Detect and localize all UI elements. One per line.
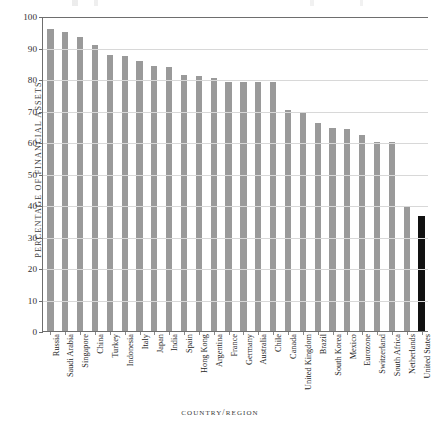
y-tick-label-30: 30: [28, 233, 37, 243]
x-axis-title-country: COUNTRY: [181, 409, 222, 417]
bar-south-africa: [389, 142, 395, 331]
x-axis-label-germany: Germany: [246, 334, 254, 365]
bar-singapore: [77, 37, 83, 331]
y-tick-label-70: 70: [28, 107, 37, 117]
page-crop-artifact: [60, 0, 390, 6]
x-axis-label-chile: Chile: [275, 334, 283, 352]
y-tick-label-80: 80: [28, 75, 37, 85]
bar-saudi-arabia: [62, 32, 68, 331]
y-tick-40: [39, 206, 43, 207]
gridline-10: [43, 301, 428, 302]
bar-china: [92, 45, 98, 331]
x-axis-label-switzerland: Switzerland: [379, 334, 387, 374]
gridline-100: [43, 17, 428, 18]
y-tick-70: [39, 112, 43, 113]
bar-russia: [47, 29, 53, 331]
bar-indonesia: [122, 56, 128, 331]
x-axis-label-argentina: Argentina: [216, 334, 224, 367]
bar-india: [166, 67, 172, 331]
bar-turkey: [107, 55, 113, 331]
bar-switzerland: [374, 142, 380, 331]
x-axis-label-south-africa: South Africa: [394, 334, 402, 376]
x-axis-label-saudi-arabia: Saudi Arabia: [67, 334, 75, 377]
x-axis-label-spain: Spain: [186, 334, 194, 353]
x-axis-label-china: China: [97, 334, 105, 354]
bar-hong-kong: [196, 76, 202, 331]
gridline-90: [43, 49, 428, 50]
y-tick-label-60: 60: [28, 138, 37, 148]
y-tick-label-100: 100: [23, 12, 37, 22]
bar-united-kingdom: [300, 113, 306, 331]
bar-spain: [181, 75, 187, 331]
y-tick-0: [39, 332, 43, 333]
x-axis-label-hong-kong: Hong Kong: [201, 334, 209, 373]
x-axis-label-australia: Australia: [260, 334, 268, 364]
bar-chart-figure: PERCENTAGE OF FINANCIAL ASSETS 010203040…: [0, 0, 440, 430]
y-tick-label-50: 50: [28, 170, 37, 180]
x-axis-label-brazil: Brazil: [320, 334, 328, 354]
x-axis-label-italy: Italy: [142, 334, 150, 349]
y-tick-90: [39, 49, 43, 50]
x-axis-label-singapore: Singapore: [82, 334, 90, 368]
x-axis-label-india: India: [171, 334, 179, 351]
x-axis-label-canada: Canada: [290, 334, 298, 359]
y-tick-30: [39, 238, 43, 239]
bar-argentina: [211, 78, 217, 331]
x-axis-label-united-kingdom: United Kingdom: [305, 334, 313, 390]
x-axis-label-south-korea: South Korea: [335, 334, 343, 376]
x-axis-label-united-states: United States: [424, 334, 432, 378]
y-tick-80: [39, 80, 43, 81]
x-axis-label-russia: Russia: [53, 334, 61, 356]
x-axis-label-indonesia: Indonesia: [127, 334, 135, 366]
y-tick-label-20: 20: [28, 264, 37, 274]
x-axis-label-france: France: [231, 334, 239, 357]
gridline-30: [43, 238, 428, 239]
y-tick-label-90: 90: [28, 44, 37, 54]
gridline-50: [43, 175, 428, 176]
x-axis-label-mexico: Mexico: [350, 334, 358, 359]
y-tick-10: [39, 301, 43, 302]
x-axis-title-region: REGION: [226, 409, 259, 417]
bar-united-states: [418, 216, 424, 331]
y-tick-100: [39, 17, 43, 18]
x-axis-label-turkey: Turkey: [112, 334, 120, 358]
y-tick-label-0: 0: [32, 327, 37, 337]
y-tick-60: [39, 143, 43, 144]
plot-area: 0102030405060708090100: [42, 17, 428, 332]
gridline-40: [43, 206, 428, 207]
x-axis-labels: RussiaSaudi ArabiaSingaporeChinaTurkeyIn…: [42, 334, 428, 400]
gridline-60: [43, 143, 428, 144]
y-tick-label-40: 40: [28, 201, 37, 211]
x-axis-label-netherlands: Netherlands: [409, 334, 417, 374]
y-tick-50: [39, 175, 43, 176]
bar-japan: [151, 66, 157, 331]
gridline-70: [43, 112, 428, 113]
x-axis-label-japan: Japan: [157, 334, 165, 353]
gridline-80: [43, 80, 428, 81]
x-axis-label-eurozone: Eurozone: [364, 334, 372, 366]
x-axis-title: COUNTRY/REGION: [0, 408, 440, 417]
gridline-20: [43, 269, 428, 270]
bar-eurozone: [359, 135, 365, 331]
y-tick-label-10: 10: [28, 296, 37, 306]
bar-italy: [136, 61, 142, 331]
y-tick-20: [39, 269, 43, 270]
